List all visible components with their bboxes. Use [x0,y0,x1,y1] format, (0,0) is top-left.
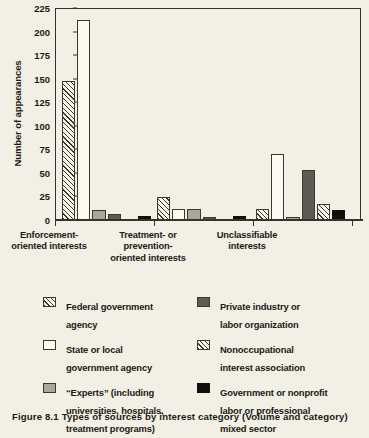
legend-swatch-white-outline-icon [43,340,56,350]
x-axis-group-tick [253,219,254,226]
legend-swatch-diagonal-hatch-icon [43,297,56,307]
x-axis-group-label-line: Unclassifiable [192,230,302,241]
y-axis-tick-label: 200 [34,26,50,37]
legend-item-label: Federal government agency [66,301,153,330]
legend-item: “Experts” (including universities, hospi… [43,382,193,436]
y-axis-title: Number of appearances [12,34,23,194]
x-axis-group-label-line: oriented interests [93,253,203,264]
x-axis-group-label-line: Enforcement- [0,230,104,241]
legend-item-label: Private industry or labor organization [220,301,300,330]
y-axis-tick-label: 0 [45,215,50,226]
x-axis-baseline [55,219,363,221]
legend-item: Government or nonprofit labor or profess… [197,382,365,436]
y-axis-tick-label: 175 [34,50,50,61]
y-axis-tick-label: 100 [34,120,50,131]
chart-legend: Federal government agencyState or local … [0,296,369,404]
legend-swatch-black-icon [197,383,210,393]
x-axis-group-label-line: interests [192,241,302,252]
legend-swatch-light-gray-icon [43,383,56,393]
legend-item-label: State or local government agency [66,344,152,373]
chart-plot-area: Number of appearances 225200175150125100… [0,8,369,238]
bar [157,197,170,220]
y-axis-tick-label: 125 [34,97,50,108]
y-axis-tick-label: 25 [39,191,50,202]
x-axis-group-labels: Enforcement-oriented interestsTreatment-… [55,230,363,280]
plot-frame [55,8,361,220]
x-axis-group-label-line: oriented interests [0,241,104,252]
x-axis-group-label: Unclassifiableinterests [192,230,302,253]
bar [77,20,90,220]
y-axis-tick-label: 225 [34,3,50,14]
x-axis-group-tick [154,219,155,226]
x-axis-group-tick [55,219,56,226]
x-axis-group-label-line: prevention- [93,241,203,252]
x-axis-group-label-line: Treatment- or [93,230,203,241]
bars-layer [56,9,360,220]
figure-caption: Figure 8.1 Types of sources by interest … [12,411,362,424]
bar [62,81,75,220]
x-axis-group-label: Enforcement-oriented interests [0,230,104,253]
y-axis-tick-label: 150 [34,73,50,84]
y-axis-tick-label: 75 [39,144,50,155]
legend-swatch-dark-gray-icon [197,297,210,307]
x-axis-group-tick [352,219,353,226]
bar [302,170,315,220]
bar [317,204,330,220]
legend-item: Federal government agency [43,296,193,332]
legend-item: State or local government agency [43,339,193,375]
x-axis-group-label: Treatment- orprevention-oriented interes… [93,230,203,264]
bar [271,154,284,220]
legend-item: Nonoccupational interest association [197,339,365,375]
legend-item: Private industry or labor organization [197,296,365,332]
legend-swatch-diagonal-hatch-icon [197,340,210,350]
y-axis-tick-labels: 2252001751501251007550250 [22,8,50,220]
legend-item-label: Nonoccupational interest association [220,344,305,373]
y-axis-tick-label: 50 [39,167,50,178]
